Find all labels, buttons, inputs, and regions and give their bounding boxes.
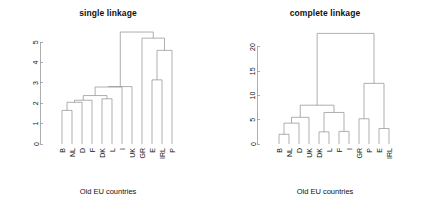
y-tick-label: 1 xyxy=(33,122,40,126)
y-axis xyxy=(40,42,43,144)
leaf-label: L xyxy=(109,148,116,152)
dendrogram-complete: 05101520BNLDUKDKLFIGRPEIRL xyxy=(217,0,433,204)
panel-xlabel-single: Old EU countries xyxy=(0,187,216,196)
dendrogram-links xyxy=(279,33,389,144)
leaf-label: UK xyxy=(306,148,313,158)
leaf-label: DK xyxy=(99,148,106,158)
leaf-label: I xyxy=(346,148,353,150)
leaf-label: GR xyxy=(139,148,146,159)
leaf-label: I xyxy=(119,148,126,150)
leaf-label: DK xyxy=(316,148,323,158)
figure-root: single linkage 012345BNLDFDKLIUKGREIRLP … xyxy=(0,0,433,204)
leaf-label: F xyxy=(336,148,343,152)
y-tick-label: 10 xyxy=(250,91,257,99)
y-tick-label: 5 xyxy=(33,40,40,44)
leaf-label: E xyxy=(149,148,156,153)
y-tick-label: 15 xyxy=(250,67,257,75)
y-tick-label: 2 xyxy=(33,101,40,105)
leaf-label: P xyxy=(169,148,176,153)
dendrogram-links xyxy=(62,32,172,144)
panel-complete-linkage: complete linkage 05101520BNLDUKDKLFIGRPE… xyxy=(217,0,433,204)
y-axis xyxy=(257,47,260,144)
leaf-label: P xyxy=(366,148,373,153)
leaf-label: GR xyxy=(356,148,363,159)
leaf-label: NL xyxy=(286,148,293,157)
panel-single-linkage: single linkage 012345BNLDFDKLIUKGREIRLP … xyxy=(0,0,216,204)
leaf-label: D xyxy=(79,148,86,153)
y-tick-label: 0 xyxy=(250,142,257,146)
y-tick-label: 0 xyxy=(33,142,40,146)
leaf-label: D xyxy=(296,148,303,153)
leaf-label: E xyxy=(376,148,383,153)
leaf-label: IRL xyxy=(386,148,393,159)
y-tick-label: 20 xyxy=(250,43,257,51)
leaf-label: L xyxy=(326,148,333,152)
leaf-label: IRL xyxy=(159,148,166,159)
leaf-label: NL xyxy=(69,148,76,157)
leaf-label: UK xyxy=(129,148,136,158)
y-tick-label: 4 xyxy=(33,61,40,65)
y-tick-label: 3 xyxy=(33,81,40,85)
y-tick-label: 5 xyxy=(250,118,257,122)
leaf-label: B xyxy=(276,148,283,153)
dendrogram-single: 012345BNLDFDKLIUKGREIRLP xyxy=(0,0,216,204)
panel-xlabel-complete: Old EU countries xyxy=(217,187,433,196)
leaf-label: B xyxy=(59,148,66,153)
leaf-label: F xyxy=(89,148,96,152)
